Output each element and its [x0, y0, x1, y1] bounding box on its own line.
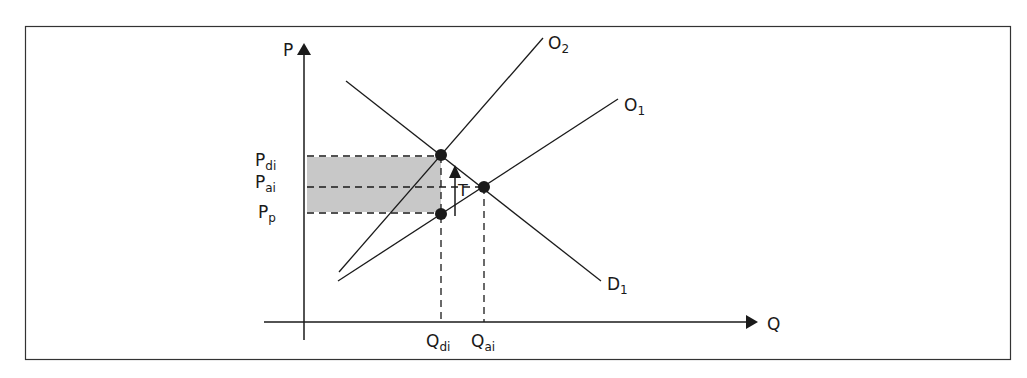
label-o2: O2: [548, 33, 569, 56]
label-d1: D1: [607, 274, 628, 297]
y-axis-label: P: [283, 40, 293, 60]
tariff-revenue-area: [307, 157, 441, 212]
label-o1: O1: [624, 95, 645, 118]
label-qdi: Qdi: [426, 331, 450, 354]
label-pai: Pai: [255, 172, 276, 195]
arrow-up-icon: [297, 43, 311, 55]
point-equilibrium: [478, 181, 490, 193]
point-pp: [435, 208, 447, 220]
x-axis-label: Q: [767, 314, 780, 334]
quantity-axis: [264, 315, 758, 329]
point-pdi: [435, 149, 447, 161]
diagram-frame: [26, 27, 1011, 360]
label-pdi: Pdi: [255, 150, 276, 173]
arrow-right-icon: [746, 315, 758, 329]
tariff-diagram: T P Q O2 O1 D1 Pdi Pai Pp Qdi Qai: [0, 0, 1027, 378]
arrow-up-icon: [449, 165, 461, 178]
label-qai: Qai: [471, 331, 495, 354]
tariff-label: T: [457, 181, 468, 200]
label-pp: Pp: [258, 202, 276, 225]
